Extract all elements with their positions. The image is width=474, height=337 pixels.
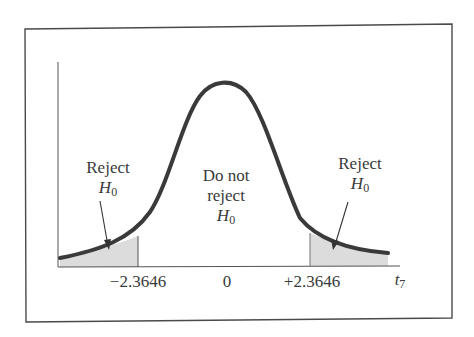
right-h-text: H <box>351 174 363 193</box>
right-h-sub: 0 <box>363 181 369 195</box>
center-h-text: H <box>217 206 229 225</box>
tick-left-label: −2.3646 <box>93 272 183 291</box>
tick-center-label: 0 <box>212 272 242 291</box>
x-axis-label: t7 <box>388 270 412 294</box>
axis-t-sub: 7 <box>399 277 405 291</box>
left-reject-label: Reject <box>68 158 148 177</box>
center-line2-label: reject <box>190 186 262 205</box>
left-arrow <box>100 201 108 246</box>
left-h0-label: H0 <box>68 178 148 202</box>
left-reject-region <box>60 236 138 267</box>
right-reject-label: Reject <box>320 154 400 173</box>
tick-right-label: +2.3646 <box>267 272 357 291</box>
center-h0-label: H0 <box>190 206 262 230</box>
left-h-text: H <box>99 178 111 197</box>
left-h-sub: 0 <box>111 185 117 199</box>
right-arrow <box>335 202 348 245</box>
center-h-sub: 0 <box>229 213 235 227</box>
right-h0-label: H0 <box>320 174 400 198</box>
center-line1-label: Do not <box>190 166 262 185</box>
